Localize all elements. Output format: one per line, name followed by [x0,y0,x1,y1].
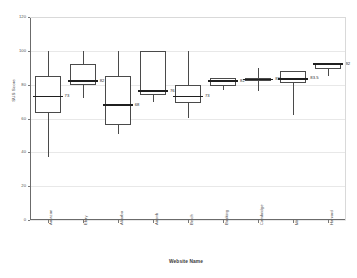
y-tick-label: 100 [10,49,26,53]
y-tick-label: 20 [10,184,26,188]
median-value-label: 92 [345,62,350,66]
y-tick-label: 0 [10,218,26,222]
x-axis-title: Website Name [140,259,232,264]
y-tick-label: 60 [10,117,26,121]
y-tick-label: 120 [10,15,26,19]
y-tick-label: 40 [10,150,26,154]
y-tick-label: 80 [10,83,26,87]
box-plot-chart: SUS Score Website Name 020406080100120 A… [0,0,357,278]
plot-frame [30,17,346,220]
y-axis-title: SUS Score [11,61,16,121]
